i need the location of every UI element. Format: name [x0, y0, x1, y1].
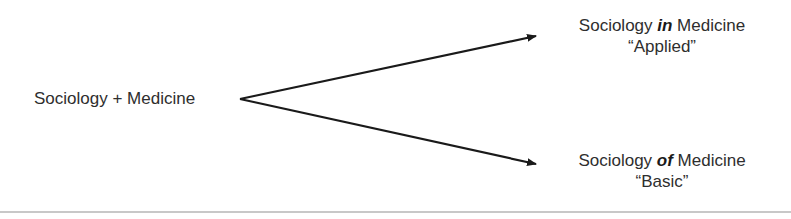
- arrow-to-basic: [240, 99, 536, 164]
- basic-title: Sociology of Medicine: [562, 150, 762, 171]
- basic-title-emphasis: of: [657, 151, 673, 170]
- target-node-applied: Sociology in Medicine “Applied”: [562, 15, 762, 57]
- basic-title-suffix: Medicine: [673, 151, 746, 170]
- basic-title-prefix: Sociology: [578, 151, 656, 170]
- bottom-divider: [0, 211, 791, 213]
- target-node-basic: Sociology of Medicine “Basic”: [562, 150, 762, 192]
- applied-title-emphasis: in: [657, 16, 672, 35]
- applied-title-prefix: Sociology: [579, 16, 657, 35]
- applied-subtitle: “Applied”: [562, 36, 762, 57]
- source-node-label: Sociology + Medicine: [34, 88, 195, 109]
- arrow-to-applied: [240, 36, 536, 99]
- applied-title-suffix: Medicine: [672, 16, 745, 35]
- applied-title: Sociology in Medicine: [562, 15, 762, 36]
- basic-subtitle: “Basic”: [562, 171, 762, 192]
